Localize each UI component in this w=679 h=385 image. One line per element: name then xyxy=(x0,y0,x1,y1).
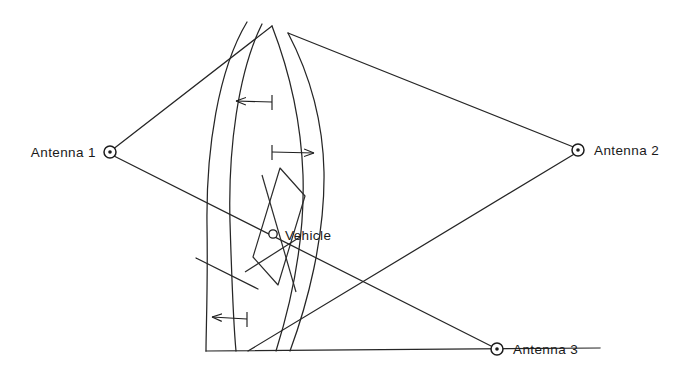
lane-arrow-lower-left xyxy=(212,317,247,319)
vehicle-label: Vehicle xyxy=(285,228,331,243)
vehicle-marker[interactable] xyxy=(269,230,277,238)
line-antenna2-to-lower-left xyxy=(248,153,576,351)
navigation-diagram: Antenna 1 Antenna 2 Antenna 3 Vehicle xyxy=(0,0,679,385)
arc-4 xyxy=(288,33,324,351)
antenna-3-label: Antenna 3 xyxy=(513,342,578,357)
antenna-2-node[interactable]: Antenna 2 xyxy=(572,143,659,158)
cell-outline xyxy=(253,168,305,285)
arc-1 xyxy=(206,22,247,351)
antenna-2-label: Antenna 2 xyxy=(594,143,659,158)
antenna-1-node[interactable]: Antenna 1 xyxy=(31,145,116,160)
arc-2 xyxy=(230,24,262,351)
line-antenna1-to-apex xyxy=(112,26,272,150)
line-left-stub xyxy=(196,258,258,289)
lane-arrow-upper-right xyxy=(272,152,314,153)
line-apex-to-antenna2 xyxy=(288,33,576,148)
diagram-canvas: Antenna 1 Antenna 2 Antenna 3 Vehicle xyxy=(0,0,679,385)
antenna-3-center-dot xyxy=(495,347,499,351)
antenna-1-center-dot xyxy=(108,150,112,154)
antenna-2-center-dot xyxy=(576,148,580,152)
lane-arrow-upper-left xyxy=(236,101,272,102)
antenna-1-label: Antenna 1 xyxy=(31,145,96,160)
antenna-3-node[interactable]: Antenna 3 xyxy=(491,342,578,357)
bearing-lines xyxy=(112,26,576,351)
